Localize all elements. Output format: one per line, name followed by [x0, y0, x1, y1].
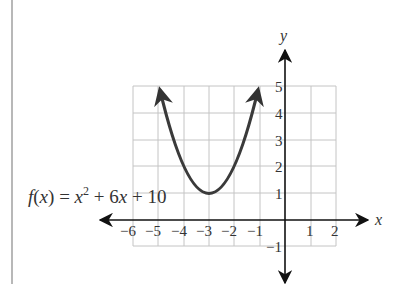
- term2: 6x: [109, 186, 127, 207]
- x-tick-label: −4: [171, 223, 187, 239]
- x-tick-label: 2: [331, 223, 339, 239]
- function-name: f: [28, 186, 33, 207]
- plus-sign: +: [132, 186, 143, 207]
- plus-sign: +: [94, 186, 105, 207]
- y-tick-label: 1: [275, 186, 283, 202]
- parabola-graph: y x −6 −5 −4 −3 −2 −1 1 2 5 4 3 2 1 −1: [0, 0, 408, 296]
- function-label: f(x) = x2 + 6x + 10: [28, 186, 166, 208]
- x-tick-label: −5: [145, 223, 161, 239]
- x-tick-labels: −6 −5 −4 −3 −2 −1 1 2: [120, 223, 339, 239]
- term1-base: x: [75, 186, 83, 207]
- y-tick-label: 2: [275, 159, 283, 175]
- y-tick-label: 3: [275, 133, 283, 149]
- x-tick-label: −1: [247, 223, 263, 239]
- y-tick-label: 5: [275, 79, 283, 95]
- constant-term: 10: [147, 186, 166, 207]
- term1-exponent: 2: [83, 184, 89, 198]
- y-tick-labels: 5 4 3 2 1 −1: [266, 79, 283, 255]
- equals-sign: =: [59, 186, 70, 207]
- function-arg: x: [40, 186, 48, 207]
- x-tick-label: −6: [120, 223, 136, 239]
- x-tick-label: −3: [196, 223, 212, 239]
- y-tick-label: 4: [275, 106, 283, 122]
- x-axis-label: x: [374, 211, 382, 228]
- y-axis-label: y: [278, 27, 288, 45]
- y-tick-label: −1: [266, 239, 282, 255]
- x-tick-label: −2: [221, 223, 237, 239]
- x-tick-label: 1: [306, 223, 314, 239]
